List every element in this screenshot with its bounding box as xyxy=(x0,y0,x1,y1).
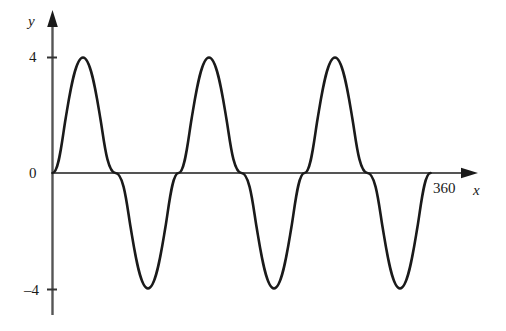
y-tick-label-neg4: –4 xyxy=(24,283,39,298)
y-axis-arrowhead xyxy=(47,10,58,27)
y-tick-label-0: 0 xyxy=(29,166,37,181)
y-tick-label-4: 4 xyxy=(29,50,37,65)
figure-canvas: y x 4 0 –4 360 xyxy=(0,0,506,331)
y-axis-label: y xyxy=(28,14,35,29)
x-axis-label: x xyxy=(473,183,480,198)
x-axis-arrowhead xyxy=(461,168,478,178)
x-tick-label-360: 360 xyxy=(433,181,456,196)
sine-curve-plot xyxy=(0,0,506,331)
